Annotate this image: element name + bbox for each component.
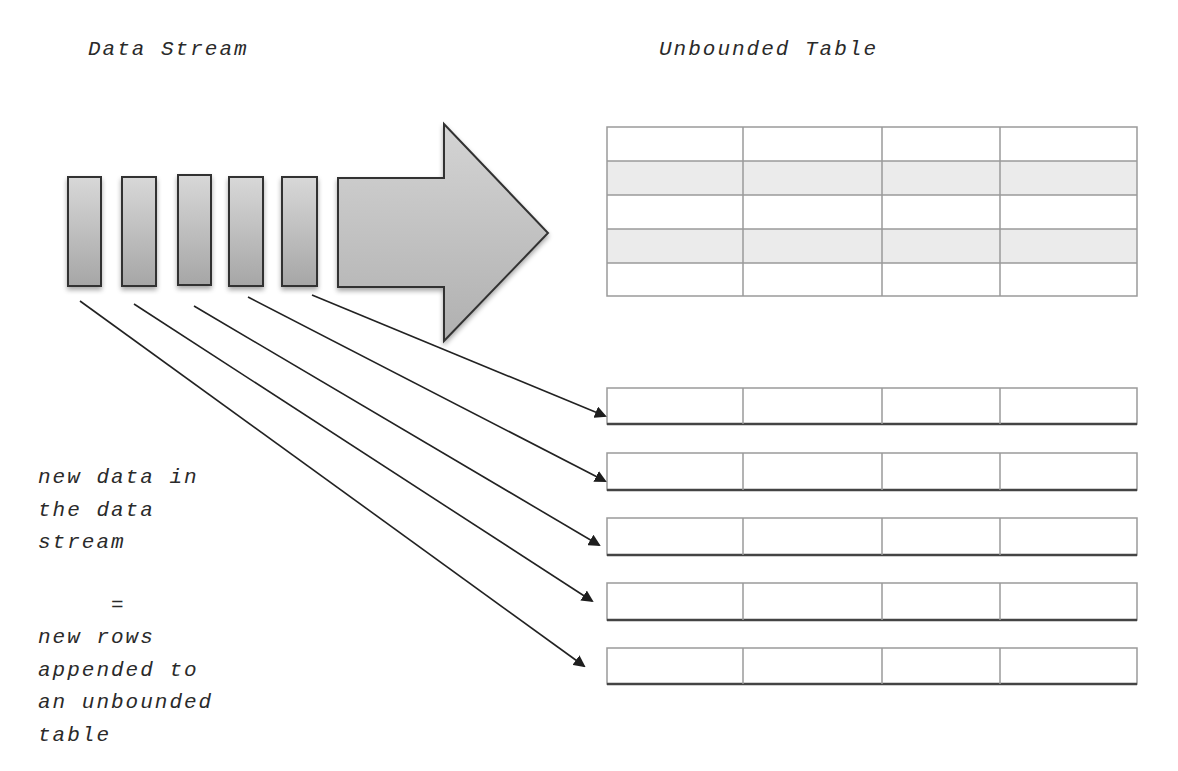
caption-line: an unbounded	[38, 687, 213, 720]
caption-line: table	[38, 720, 213, 753]
stream-block-5	[282, 177, 317, 286]
caption-line: the data	[38, 495, 213, 528]
right-arrow-icon	[338, 124, 548, 341]
appended-row-5	[607, 648, 1137, 684]
caption-line: new rows	[38, 622, 213, 655]
stream-block-3	[178, 175, 211, 285]
caption-equals: =	[38, 590, 213, 623]
caption-line: appended to	[38, 655, 213, 688]
appended-row-1	[607, 388, 1137, 424]
caption-line	[38, 560, 213, 590]
connector-arrow-2	[248, 297, 605, 481]
unbounded-table	[607, 127, 1137, 296]
stream-block-4	[229, 177, 263, 286]
connector-arrow-3	[194, 306, 599, 545]
caption-line: new data in	[38, 462, 213, 495]
appended-row-2	[607, 453, 1137, 490]
appended-row-4	[607, 583, 1137, 620]
caption-line: stream	[38, 527, 213, 560]
explanation-caption: new data in the data stream = new rows a…	[38, 462, 213, 752]
appended-row-3	[607, 518, 1137, 555]
stream-blocks	[68, 175, 317, 286]
appended-rows	[607, 388, 1137, 684]
stream-block-2	[122, 177, 156, 286]
stream-block-1	[68, 177, 101, 286]
